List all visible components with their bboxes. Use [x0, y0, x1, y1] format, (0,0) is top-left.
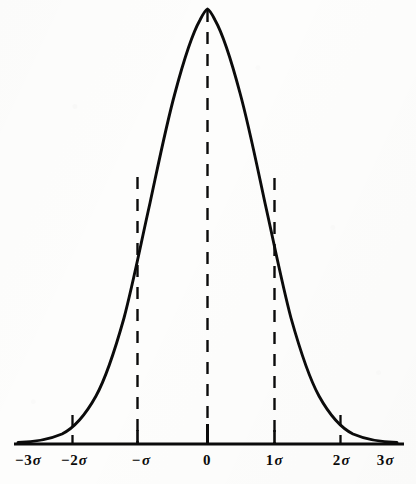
bell-curve-figure: −3σ −2σ −σ 0 1σ 2σ 3σ [0, 0, 416, 484]
axis-label-neg-1-sigma: −σ [132, 452, 151, 469]
axis-label-neg-3-sigma: −3σ [15, 452, 41, 469]
axis-label-pos-2-sigma: 2σ [332, 452, 350, 469]
normal-distribution-plot [0, 0, 416, 484]
normal-curve-path [18, 9, 397, 443]
sigma-symbol-neg-3: σ [32, 452, 41, 468]
minus-sign-neg-3-sigma: − [15, 452, 24, 468]
sigma-symbol-neg-2: σ [78, 452, 87, 468]
axis-label-neg-2-sigma: −2σ [61, 452, 87, 469]
sigma-symbol-neg-1: σ [141, 452, 150, 468]
sigma-symbol-zero [211, 452, 212, 468]
axis-label-pos-1-sigma: 1σ [265, 452, 283, 469]
sigma-symbol-pos-1: σ [273, 452, 282, 468]
minus-sign-neg-2-sigma: − [61, 452, 70, 468]
number-neg-3-sigma: 3 [24, 452, 32, 468]
axis-label-zero: 0 [202, 452, 211, 469]
minus-sign-neg-1-sigma: − [132, 452, 141, 468]
axis-label-pos-3-sigma: 3σ [376, 452, 394, 469]
sigma-symbol-pos-2: σ [340, 452, 349, 468]
number-neg-2-sigma: 2 [70, 452, 78, 468]
sigma-symbol-pos-3: σ [384, 452, 393, 468]
